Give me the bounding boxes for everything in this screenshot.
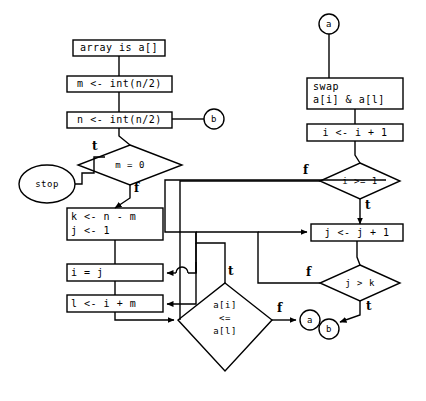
edge-hop-arc: [176, 267, 188, 273]
shape-n-assign: [67, 112, 172, 128]
shape-m-assign: [67, 76, 172, 92]
shape-i-dec: [307, 124, 403, 141]
shape-array-is: [73, 40, 165, 56]
shape-conn-b-right: [204, 109, 224, 129]
flowchart-canvas: array is a[] m <- int(n/2) n <- int(n/2)…: [0, 0, 426, 401]
shape-conn-a-bottom: [300, 310, 320, 330]
edge-ige1-false-rail: [180, 181, 320, 320]
shape-stop: [19, 165, 75, 203]
edge-idec-to-ige1: [355, 141, 360, 163]
edge-l-to-compare: [115, 312, 174, 320]
shape-k-j-init: [67, 208, 163, 240]
edge-jgtk-true-to-b: [340, 301, 360, 322]
shape-i-eq-j: [67, 264, 163, 281]
shape-j-gt-k: [320, 265, 400, 301]
shape-i-ge-1: [320, 163, 400, 199]
edge-n-to-meq0: [119, 128, 130, 145]
edge-rail-to-ieqj-a: [188, 262, 196, 273]
shape-conn-b-bottom: [319, 319, 339, 339]
flowchart-graphics: [0, 0, 426, 401]
shape-conn-a-top: [319, 14, 339, 34]
edge-meq0-false-to-kj: [115, 185, 130, 208]
shape-j-inc: [311, 224, 403, 241]
shape-compare: [178, 283, 272, 371]
shape-l-assign: [67, 295, 163, 312]
edge-jinc-to-jgtk: [357, 241, 360, 265]
shape-swap: [307, 78, 403, 109]
edge-jgtk-false-seg1: [196, 232, 320, 283]
